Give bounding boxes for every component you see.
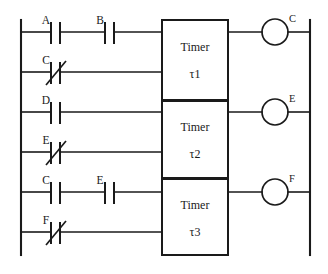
- rung-6: F: [21, 214, 162, 245]
- contact-b-normally-open[interactable]: B: [96, 14, 114, 44]
- timer-3-rect: [162, 179, 228, 255]
- coil-e-circle: [262, 99, 288, 125]
- contact-c-nc-label: C: [42, 54, 50, 66]
- contact-b-label: B: [96, 14, 104, 26]
- timer-block-1[interactable]: Timer τ1: [162, 20, 228, 100]
- timer-1-title: Timer: [181, 40, 210, 54]
- timer-2-parameter: τ2: [190, 147, 201, 161]
- timer-block-3[interactable]: Timer τ3: [162, 179, 228, 255]
- timer-2-rect: [162, 101, 228, 178]
- contact-f-normally-closed[interactable]: F: [43, 214, 66, 245]
- rung-2: C: [21, 54, 162, 85]
- contact-e-normally-closed[interactable]: E: [42, 134, 66, 165]
- coil-f-output[interactable]: F: [262, 173, 295, 205]
- coil-c-circle: [262, 19, 288, 45]
- contact-f-nc-label: F: [43, 214, 49, 226]
- contact-a-label: A: [42, 14, 51, 26]
- timer-1-parameter: τ1: [190, 67, 201, 81]
- coil-f-circle: [262, 179, 288, 205]
- contact-e-no-label: E: [96, 174, 103, 186]
- coil-c-output[interactable]: C: [262, 13, 296, 45]
- timer-3-parameter: τ3: [190, 225, 201, 239]
- contact-d-normally-open[interactable]: D: [42, 94, 60, 124]
- coil-c-label: C: [289, 13, 296, 24]
- timer-2-title: Timer: [181, 120, 210, 134]
- contact-c-normally-open[interactable]: C: [42, 174, 60, 204]
- contact-e-normally-open[interactable]: E: [96, 174, 114, 204]
- ladder-logic-diagram: A B C C: [0, 0, 328, 274]
- contact-a-normally-open[interactable]: A: [42, 14, 60, 44]
- coil-e-label: E: [289, 93, 295, 104]
- rung-4: E: [21, 134, 162, 165]
- contact-e-nc-label: E: [42, 134, 49, 146]
- ladder-diagram-canvas: A B C C: [0, 0, 328, 274]
- coil-e-output[interactable]: E: [262, 93, 295, 125]
- contact-d-label: D: [42, 94, 50, 106]
- contact-c-no-label: C: [42, 174, 50, 186]
- timer-3-title: Timer: [181, 198, 210, 212]
- timer-block-2[interactable]: Timer τ2: [162, 101, 228, 178]
- coil-f-label: F: [289, 173, 295, 184]
- contact-c-normally-closed[interactable]: C: [42, 54, 66, 85]
- timer-1-rect: [162, 20, 228, 100]
